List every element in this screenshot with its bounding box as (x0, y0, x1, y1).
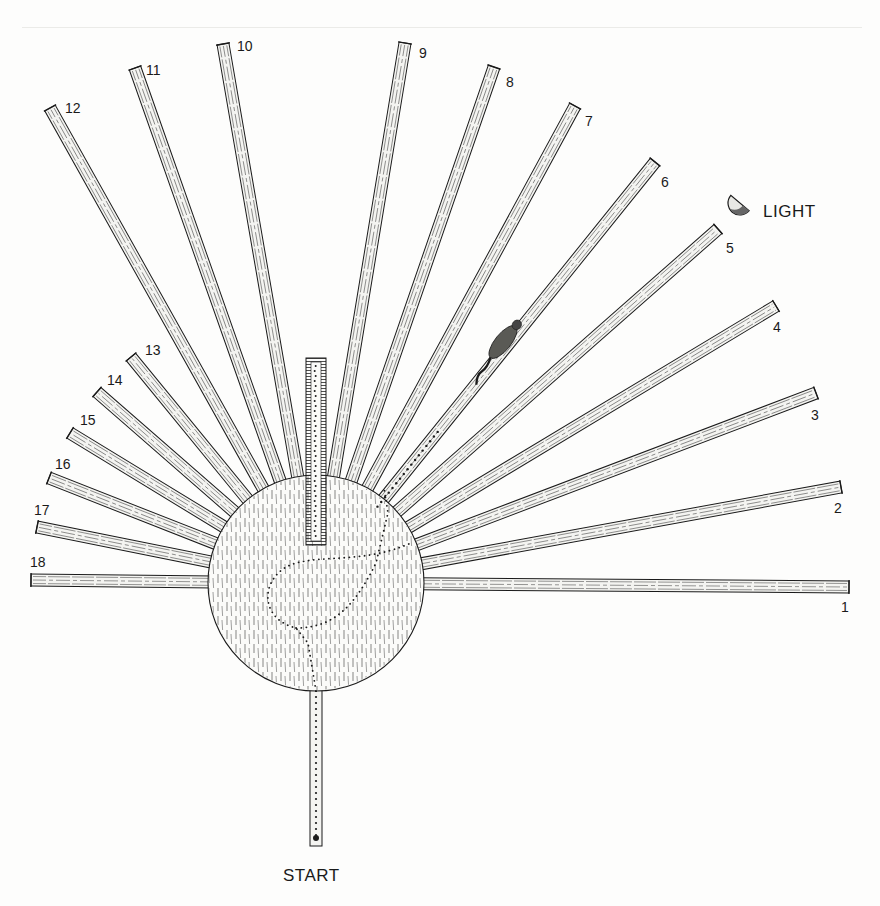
path-dot (406, 468, 408, 470)
path-dot (425, 445, 427, 447)
path-dot (433, 435, 435, 437)
path-dot (429, 440, 431, 442)
arm-label-4: 4 (773, 319, 781, 335)
start-point-dot (313, 835, 319, 841)
path-dot (418, 454, 420, 456)
maze-arm-1 (418, 577, 849, 594)
path-dot (410, 463, 412, 465)
arm-label-1: 1 (841, 599, 849, 615)
arm-label-18: 18 (30, 554, 46, 570)
path-dot (384, 496, 386, 498)
arm-label-2: 2 (834, 500, 842, 516)
path-dot (391, 487, 393, 489)
path-dot (376, 505, 378, 507)
light-icon (723, 195, 749, 220)
path-dot (403, 473, 405, 475)
light-label: LIGHT (763, 202, 816, 221)
arm-label-6: 6 (661, 174, 669, 190)
path-dot (414, 459, 416, 461)
arm-label-10: 10 (237, 38, 253, 54)
arm-label-3: 3 (811, 407, 819, 423)
path-dot (399, 477, 401, 479)
arm-label-16: 16 (55, 456, 71, 472)
arm-label-11: 11 (146, 62, 161, 78)
path-dot (395, 482, 397, 484)
central-platform (208, 358, 424, 691)
arm-label-8: 8 (506, 74, 514, 90)
path-dot (436, 431, 438, 433)
maze-arm-18 (31, 573, 214, 589)
arm-label-5: 5 (726, 240, 734, 256)
path-dot (421, 449, 423, 451)
maze-arms (31, 42, 849, 846)
rat-icon (465, 316, 526, 386)
start-label: START (283, 866, 340, 885)
path-dot (380, 501, 382, 503)
arm-label-17: 17 (34, 502, 50, 518)
radial-maze-diagram: 123456789101112131415161718LIGHTSTART (0, 0, 880, 906)
arm-label-7: 7 (585, 113, 593, 129)
arm-label-14: 14 (107, 372, 123, 388)
arm-labels: 123456789101112131415161718LIGHTSTART (30, 38, 849, 885)
arm-label-12: 12 (65, 100, 81, 116)
arm-label-13: 13 (145, 342, 161, 358)
arm-label-9: 9 (419, 45, 427, 61)
arm-label-15: 15 (80, 412, 96, 428)
path-dot (388, 491, 390, 493)
